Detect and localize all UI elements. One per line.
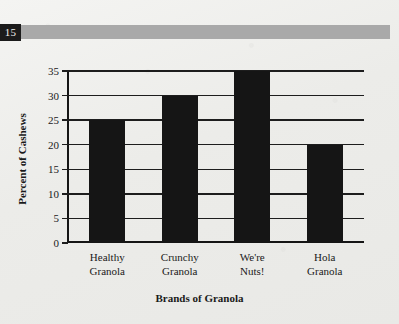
y-axis-tick (62, 119, 68, 121)
x-axis-title: Brands of Granola (0, 292, 399, 304)
y-axis-tick-label: 10 (48, 188, 59, 200)
y-axis-tick (62, 242, 68, 244)
y-axis-tick-label: 35 (48, 65, 59, 77)
plot-area: 05101520253035 (67, 71, 357, 243)
y-axis-tick-label: 30 (48, 90, 59, 102)
running-head-band (0, 25, 390, 39)
x-axis-tick-label-line: Hola (282, 251, 368, 265)
x-axis-tick-label: HolaGranola (282, 251, 368, 278)
plot-inner: 05101520253035 (67, 71, 357, 243)
y-axis-tick (62, 218, 68, 220)
gridline (67, 95, 364, 97)
bar-chart-figure: Percent of Cashews 05101520253035 Health… (0, 55, 399, 324)
gridline (67, 70, 364, 72)
bar (234, 71, 270, 242)
y-axis-tick-label: 20 (48, 139, 59, 151)
y-axis-tick-label: 5 (54, 212, 60, 224)
y-axis-title: Percent of Cashews (16, 99, 28, 219)
y-axis-tick (62, 193, 68, 195)
y-axis-tick-label: 15 (48, 163, 59, 175)
x-axis-tick-label-line: Granola (282, 265, 368, 279)
page-number: 15 (0, 24, 21, 41)
bar (162, 96, 198, 242)
y-axis-tick (62, 70, 68, 72)
bar (89, 120, 125, 242)
y-axis-tick (62, 169, 68, 171)
y-axis-tick (62, 95, 68, 97)
y-axis-tick-label: 25 (48, 114, 59, 126)
y-axis-tick (62, 144, 68, 146)
bar (307, 145, 343, 242)
y-axis-tick-label: 0 (54, 237, 60, 249)
